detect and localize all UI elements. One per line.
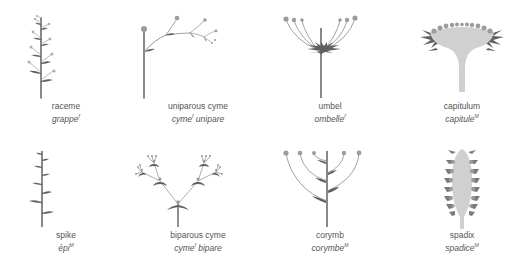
umbel-labels: umbel ombellef — [264, 101, 396, 124]
capitulum-figure: capitulum capituleM — [396, 0, 528, 129]
gender-marker: f — [79, 113, 80, 119]
corymb-labels: corymb corymbeM — [264, 230, 396, 253]
french-label: épiM — [0, 240, 132, 253]
english-label: corymb — [264, 230, 396, 240]
french-label: grappef — [0, 111, 132, 124]
spadix-illustration — [396, 129, 528, 229]
english-label: umbel — [264, 101, 396, 111]
french-label: cymef bipare — [132, 240, 264, 253]
umbel-figure: umbel ombellef — [264, 0, 396, 129]
spike-illustration — [0, 129, 132, 229]
capitulum-labels: capitulum capituleM — [396, 101, 528, 124]
uniparous-cyme-illustration — [132, 0, 264, 100]
biparous-cyme-figure: biparous cyme cymef bipare — [132, 129, 264, 258]
english-label: uniparous cyme — [132, 101, 264, 111]
gender-marker: f — [344, 113, 345, 119]
english-label: spadix — [396, 230, 528, 240]
biparous-cyme-labels: biparous cyme cymef bipare — [132, 230, 264, 253]
gender-marker: M — [475, 113, 479, 119]
corymb-figure: corymb corymbeM — [264, 129, 396, 258]
spike-figure: spike épiM — [0, 129, 132, 258]
inflorescence-diagram-grid: raceme grappef — [0, 0, 528, 258]
uniparous-cyme-labels: uniparous cyme cymef unipare — [132, 101, 264, 124]
gender-marker: M — [70, 242, 74, 248]
french-label: cymef unipare — [132, 111, 264, 124]
english-label: raceme — [0, 101, 132, 111]
biparous-cyme-illustration — [132, 129, 264, 229]
raceme-figure: raceme grappef — [0, 0, 132, 129]
spadix-labels: spadix spadiceM — [396, 230, 528, 253]
english-label: spike — [0, 230, 132, 240]
raceme-labels: raceme grappef — [0, 101, 132, 124]
uniparous-cyme-figure: uniparous cyme cymef unipare — [132, 0, 264, 129]
english-label: capitulum — [396, 101, 528, 111]
umbel-illustration — [264, 0, 396, 100]
spadix-figure: spadix spadiceM — [396, 129, 528, 258]
gender-marker: M — [475, 242, 479, 248]
gender-marker: M — [344, 242, 348, 248]
french-label: spadiceM — [396, 240, 528, 253]
capitulum-illustration — [396, 0, 528, 100]
raceme-illustration — [0, 0, 132, 100]
english-label: biparous cyme — [132, 230, 264, 240]
french-label: capituleM — [396, 111, 528, 124]
french-label: ombellef — [264, 111, 396, 124]
corymb-illustration — [264, 129, 396, 229]
french-label: corymbeM — [264, 240, 396, 253]
spike-labels: spike épiM — [0, 230, 132, 253]
